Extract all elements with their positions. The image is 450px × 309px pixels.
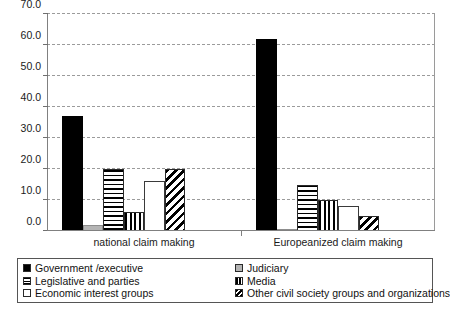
bar-group	[241, 14, 435, 231]
x-axis-line	[47, 230, 435, 231]
bar	[165, 169, 186, 231]
legend-swatch-icon	[23, 264, 31, 272]
y-tick-label: 30.0	[21, 123, 41, 134]
legend-entry: Judiciary	[235, 263, 450, 274]
bar	[338, 206, 359, 231]
legend-label: Judiciary	[247, 263, 288, 274]
legend-entry: Government /executive	[23, 263, 235, 274]
legend-label: Other civil society groups and organizat…	[247, 288, 450, 299]
legend-swatch-icon	[235, 264, 243, 272]
legend-entry: Legislative and parties	[23, 276, 235, 287]
legend-label: Government /executive	[35, 263, 143, 274]
legend-entry: Other civil society groups and organizat…	[235, 288, 450, 299]
legend-swatch-icon	[23, 289, 31, 297]
bar-group	[47, 14, 241, 231]
bar	[256, 39, 277, 231]
legend-label: Economic interest groups	[35, 288, 153, 299]
legend-label: Legislative and parties	[35, 276, 139, 287]
chart-legend: Government /executiveJudiciaryLegislativ…	[17, 258, 433, 303]
legend-grid: Government /executiveJudiciaryLegislativ…	[23, 262, 428, 300]
x-axis-category-label: national claim making	[94, 237, 195, 248]
bar	[62, 116, 83, 231]
y-tick-label: 0.0	[26, 216, 41, 227]
y-tick-label: 20.0	[21, 154, 41, 165]
y-tick-label: 70.0	[21, 0, 41, 9]
bar	[103, 169, 124, 231]
x-axis-category-label: Europeanized claim making	[274, 237, 403, 248]
legend-swatch-icon	[235, 277, 243, 285]
bar	[318, 200, 339, 231]
legend-swatch-icon	[23, 277, 31, 285]
plot-area: 0.010.020.030.040.050.060.070.0	[47, 14, 435, 231]
y-tick-label: 60.0	[21, 30, 41, 41]
x-group-tick	[241, 231, 242, 236]
legend-entry: Media	[235, 276, 450, 287]
bar-chart-figure: 0.010.020.030.040.050.060.070.0 national…	[0, 0, 450, 309]
legend-swatch-icon	[235, 289, 243, 297]
y-tick-label: 10.0	[21, 185, 41, 196]
bar	[144, 181, 165, 231]
bar	[359, 216, 380, 232]
bar	[297, 185, 318, 232]
legend-label: Media	[247, 276, 276, 287]
legend-entry: Economic interest groups	[23, 288, 235, 299]
y-tick-label: 40.0	[21, 92, 41, 103]
bar	[124, 212, 145, 231]
y-tick-label: 50.0	[21, 61, 41, 72]
